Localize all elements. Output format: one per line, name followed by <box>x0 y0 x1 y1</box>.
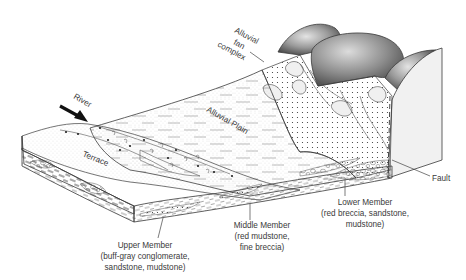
svg-text:Fault: Fault <box>432 174 451 183</box>
label-upper-member: Upper Member (buff-gray conglomerate, sa… <box>100 218 189 272</box>
svg-text:(buff-gray conglomerate,: (buff-gray conglomerate, <box>100 252 189 261</box>
svg-text:(red mudstone,: (red mudstone, <box>234 232 289 241</box>
label-river: River <box>72 92 93 109</box>
svg-text:mudstone): mudstone) <box>346 220 385 229</box>
svg-text:(red breccia, sandstone,: (red breccia, sandstone, <box>321 209 409 218</box>
svg-text:Lower Member: Lower Member <box>338 198 393 207</box>
label-alluvial-fan-complex: Alluvial fan complex <box>216 26 264 62</box>
svg-text:sandstone, mudstone): sandstone, mudstone) <box>104 263 185 272</box>
svg-text:fine breccia): fine breccia) <box>240 243 285 252</box>
geologic-block-diagram: River Alluvial fan complex Alluvial Plai… <box>0 0 466 280</box>
river-flow-arrow-icon <box>60 106 88 122</box>
svg-text:Upper Member: Upper Member <box>118 241 173 250</box>
svg-text:Middle Member: Middle Member <box>234 221 291 230</box>
label-middle-member: Middle Member (red mudstone, fine brecci… <box>234 204 291 252</box>
